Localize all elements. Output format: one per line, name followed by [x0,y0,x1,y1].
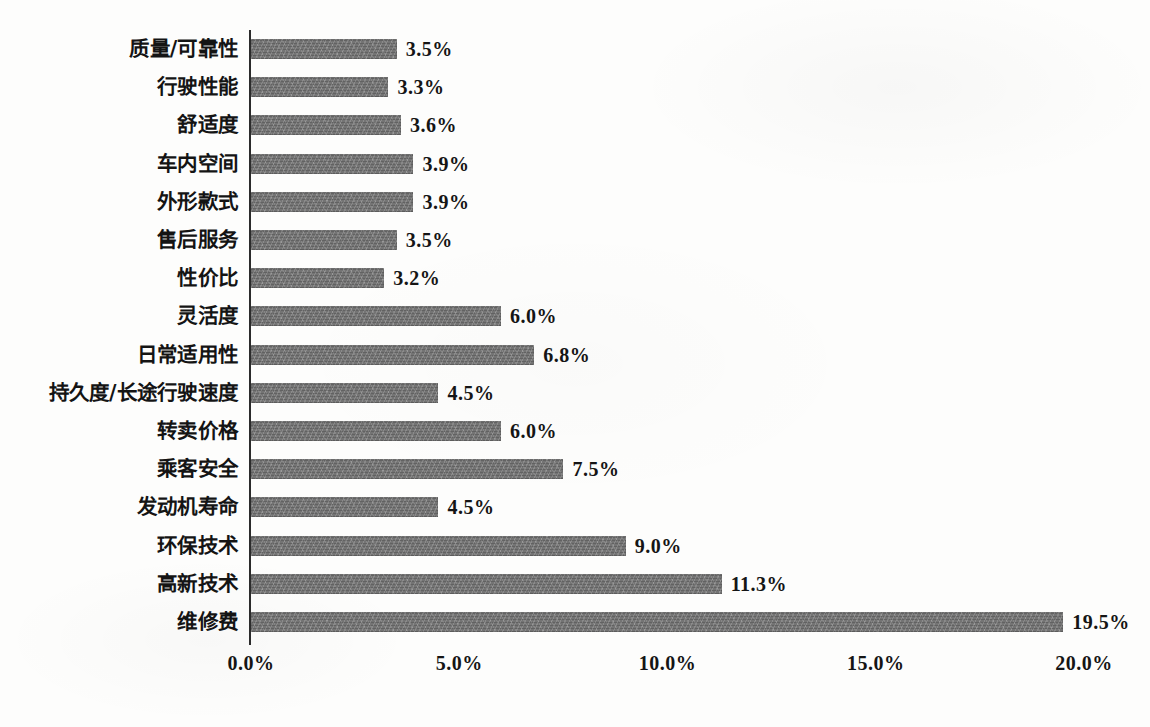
bar-row: 持久度/长途行驶速度4.5% [0,374,1150,412]
bar-value-label: 3.5% [406,30,453,68]
bar [251,421,501,441]
bar-row: 维修费19.5% [0,603,1150,641]
category-label-text: 日常适用性 [137,336,238,374]
category-label-text: 外形款式 [157,183,238,221]
bar-value-label: 11.3% [731,565,787,603]
bar-value-label: 6.8% [543,336,590,374]
x-tick-label: 20.0% [1055,652,1113,675]
bar [251,192,413,212]
bar [251,77,388,97]
bar-row: 环保技术9.0% [0,527,1150,565]
bar-row: 外形款式3.9% [0,183,1150,221]
bar [251,230,397,250]
bar [251,39,397,59]
bar [251,306,501,326]
bar [251,574,722,594]
bar-value-label: 3.3% [397,68,444,106]
bar-value-label: 3.2% [393,259,440,297]
bar-row: 行驶性能3.3% [0,68,1150,106]
bar-row: 乘客安全7.5% [0,450,1150,488]
bar-value-label: 3.5% [406,221,453,259]
bar-value-label: 4.5% [447,374,494,412]
bar-row: 高新技术11.3% [0,565,1150,603]
bar [251,383,438,403]
bar-value-label: 6.0% [510,297,557,335]
bar [251,459,563,479]
bar-value-label: 3.9% [422,183,469,221]
bar-value-label: 3.6% [410,106,457,144]
category-label-text: 高新技术 [157,565,238,603]
bar-value-label: 19.5% [1072,603,1130,641]
bar-row: 舒适度3.6% [0,106,1150,144]
category-label-text: 质量/可靠性 [129,30,238,68]
category-label-text: 转卖价格 [157,412,238,450]
category-label-text: 维修费 [177,603,238,641]
bar-value-label: 3.9% [422,145,469,183]
bar-row: 发动机寿命4.5% [0,488,1150,526]
bar [251,268,384,288]
bar-row: 质量/可靠性3.5% [0,30,1150,68]
bar [251,612,1063,632]
bar-value-label: 9.0% [635,527,682,565]
x-tick-label: 0.0% [228,652,275,675]
bar-value-label: 7.5% [572,450,619,488]
bar [251,536,626,556]
category-label-text: 舒适度 [177,106,238,144]
bar-row: 灵活度6.0% [0,297,1150,335]
bar-value-label: 6.0% [510,412,557,450]
bar [251,115,401,135]
category-label-text: 环保技术 [157,527,238,565]
x-tick-label: 10.0% [639,652,697,675]
category-label-text: 持久度/长途行驶速度 [49,374,239,412]
x-tick-label: 15.0% [847,652,905,675]
category-label-text: 乘客安全 [157,450,238,488]
bar-value-label: 4.5% [447,488,494,526]
bar-row: 性价比3.2% [0,259,1150,297]
bar-row: 转卖价格6.0% [0,412,1150,450]
bar [251,497,438,517]
bar-row: 车内空间3.9% [0,145,1150,183]
bar-row: 日常适用性6.8% [0,336,1150,374]
category-label-text: 性价比 [177,259,238,297]
x-tick-label: 5.0% [436,652,483,675]
horizontal-bar-chart: 质量/可靠性3.5%行驶性能3.3%舒适度3.6%车内空间3.9%外形款式3.9… [0,0,1150,727]
category-label-text: 车内空间 [157,145,238,183]
bar [251,154,413,174]
bar [251,345,534,365]
category-label-text: 售后服务 [157,221,238,259]
category-label-text: 灵活度 [177,297,238,335]
category-label-text: 行驶性能 [157,68,238,106]
category-label-text: 发动机寿命 [137,488,238,526]
bar-row: 售后服务3.5% [0,221,1150,259]
